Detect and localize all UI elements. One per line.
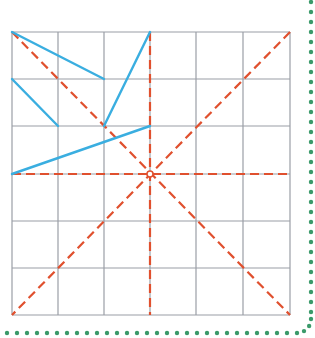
border-dot [295, 331, 299, 335]
border-dot [285, 331, 289, 335]
border-dot [309, 90, 313, 94]
border-dot [309, 50, 313, 54]
border-dot [105, 331, 109, 335]
border-dot [309, 70, 313, 74]
border-dot [55, 331, 59, 335]
border-dot [309, 220, 313, 224]
border-dot [309, 190, 313, 194]
border-dot [165, 331, 169, 335]
border-dot [35, 331, 39, 335]
border-dot [309, 250, 313, 254]
border-dot [309, 270, 313, 274]
border-dot [309, 317, 313, 321]
border-dot [309, 0, 313, 4]
border-dot [145, 331, 149, 335]
border-dot [309, 280, 313, 284]
border-dot [309, 100, 313, 104]
border-dot [15, 331, 19, 335]
border-dot [309, 210, 313, 214]
border-dot [309, 120, 313, 124]
border-dot [309, 300, 313, 304]
border-dot [309, 60, 313, 64]
border-dot [185, 331, 189, 335]
border-dot [25, 331, 29, 335]
center-point-icon [147, 171, 153, 177]
border-dot [75, 331, 79, 335]
border-dot [309, 170, 313, 174]
border-dot [155, 331, 159, 335]
border-dot [309, 140, 313, 144]
border-dot [85, 331, 89, 335]
blue-segment [12, 126, 150, 174]
border-dot [309, 130, 313, 134]
border-dot [205, 331, 209, 335]
border-dot [309, 310, 313, 314]
border-dot [135, 331, 139, 335]
border-dot [65, 331, 69, 335]
border-dot [309, 110, 313, 114]
border-dot [307, 324, 311, 328]
dotted-border [5, 0, 313, 335]
border-dot [115, 331, 119, 335]
border-dot [175, 331, 179, 335]
border-dot [95, 331, 99, 335]
border-dot [309, 30, 313, 34]
border-dot [309, 200, 313, 204]
border-dot [309, 150, 313, 154]
border-dot [125, 331, 129, 335]
border-dot [309, 10, 313, 14]
border-dot [302, 329, 306, 333]
border-dot [245, 331, 249, 335]
border-dot [275, 331, 279, 335]
blue-segment [12, 79, 58, 126]
border-dot [309, 180, 313, 184]
border-dot [309, 20, 313, 24]
border-dot [225, 331, 229, 335]
border-dot [45, 331, 49, 335]
border-dot [309, 40, 313, 44]
border-dot [309, 240, 313, 244]
border-dot [309, 160, 313, 164]
border-dot [309, 80, 313, 84]
grid-diagram [0, 0, 315, 338]
border-dot [309, 230, 313, 234]
border-dot [5, 331, 9, 335]
border-dot [215, 331, 219, 335]
center-point [147, 171, 153, 177]
border-dot [309, 290, 313, 294]
border-dot [265, 331, 269, 335]
border-dot [235, 331, 239, 335]
border-dot [309, 260, 313, 264]
border-dot [195, 331, 199, 335]
border-dot [255, 331, 259, 335]
